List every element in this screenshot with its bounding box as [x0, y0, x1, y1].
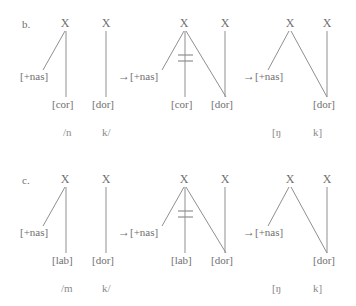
- association-lines-c3: [0, 156, 356, 306]
- derivation-row-c: c. X X [+nas] [lab] [dor] /m k/ → X X [+…: [0, 156, 356, 306]
- output-left-c: [ŋ: [272, 282, 281, 294]
- feature-dor-b3: [dor]: [313, 98, 335, 110]
- derivation-row-b: b. X X [+nas] [cor] [dor] /n k/ → X X [+…: [0, 0, 356, 153]
- feature-nas-c3: [+nas]: [255, 226, 283, 238]
- output-left-b: [ŋ: [272, 126, 281, 138]
- association-lines-b3: [0, 0, 356, 153]
- output-right-b: k]: [313, 126, 322, 138]
- feature-nas-b3: [+nas]: [255, 70, 283, 82]
- output-right-c: k]: [313, 282, 322, 294]
- feature-dor-c3: [dor]: [313, 254, 335, 266]
